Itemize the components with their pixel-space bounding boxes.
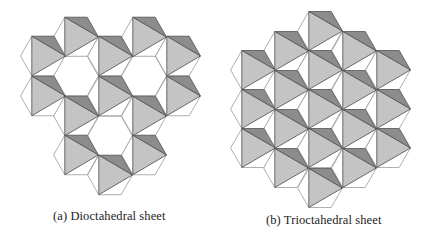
dioctahedral-sheet <box>21 17 201 195</box>
caption-dioctahedral: (a) Dioctahedral sheet <box>53 209 166 224</box>
octahedral-sheets-diagram <box>0 0 433 238</box>
caption-trioctahedral: (b) Trioctahedral sheet <box>266 213 381 228</box>
trioctahedral-sheet <box>231 12 411 208</box>
